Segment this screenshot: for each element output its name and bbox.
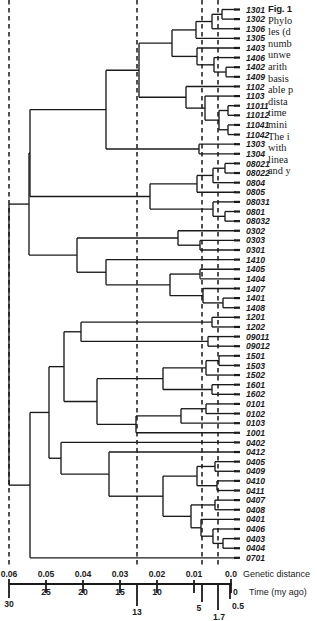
tip-label-1502: 1502 — [246, 370, 265, 380]
gd-tick-label-0.02: 0.02 — [149, 569, 166, 579]
time-tick-label-0.5: 0.5 — [232, 601, 244, 611]
tip-label-1302: 1302 — [246, 14, 265, 24]
tip-label-1403: 1403 — [246, 43, 265, 53]
caption-line-4: arith — [268, 61, 317, 73]
tip-label-1401: 1401 — [246, 293, 265, 303]
tip-label-0409: 0409 — [246, 466, 265, 476]
time-tick-label-1.7: 1.7 — [213, 612, 225, 621]
tip-label-0303: 0303 — [246, 235, 265, 245]
time-tick-label-10: 10 — [152, 587, 162, 597]
tip-label-0404: 0404 — [246, 543, 265, 553]
tip-label-0301: 0301 — [246, 245, 265, 255]
gd-tick-label-0.05: 0.05 — [38, 569, 55, 579]
tip-label-1304: 1304 — [246, 149, 265, 159]
time-tick-label-15: 15 — [115, 587, 125, 597]
axis-group: 0.060.050.040.030.020.010.03025201513105… — [1, 569, 310, 621]
tip-label-08021: 08021 — [246, 159, 270, 169]
caption-line-1: les (d — [268, 26, 317, 38]
caption-line-9: mini — [268, 119, 317, 131]
time-axis-title: Time (my ago) — [249, 587, 307, 597]
gd-tick-label-0.03: 0.03 — [112, 569, 129, 579]
gd-tick-label-0.06: 0.06 — [1, 569, 18, 579]
tip-label-0403: 0403 — [246, 534, 265, 544]
tip-label-0801: 0801 — [246, 207, 265, 217]
tip-label-0411: 0411 — [246, 486, 265, 496]
tip-labels-group: 1301130213061305140314061402140911021103… — [246, 5, 270, 563]
time-tick-label-13: 13 — [132, 607, 142, 617]
tip-label-0103: 0103 — [246, 418, 265, 428]
tip-label-1405: 1405 — [246, 264, 265, 274]
tip-label-1305: 1305 — [246, 33, 265, 43]
time-tick-label-5: 5 — [197, 603, 202, 613]
tip-label-08031: 08031 — [246, 197, 270, 207]
caption-line-12: linea — [268, 154, 317, 166]
tip-label-1303: 1303 — [246, 139, 265, 149]
tip-label-11042: 11042 — [246, 130, 269, 140]
tip-label-0412: 0412 — [246, 447, 265, 457]
tip-label-1001: 1001 — [246, 428, 265, 438]
tip-label-1102: 1102 — [246, 82, 265, 92]
reference-lines-group — [9, 0, 218, 566]
tip-label-0102: 0102 — [246, 409, 265, 419]
tip-label-0701: 0701 — [246, 553, 265, 563]
tip-label-0302: 0302 — [246, 226, 265, 236]
time-tick-label-0: 0 — [233, 587, 238, 597]
tip-label-1404: 1404 — [246, 274, 265, 284]
caption-line-11: with — [268, 142, 317, 154]
tip-label-1503: 1503 — [246, 361, 265, 371]
caption-line-8: time — [268, 107, 317, 119]
time-tick-label-30: 30 — [4, 599, 14, 609]
tip-label-09011: 09011 — [246, 332, 269, 342]
tip-label-1602: 1602 — [246, 389, 265, 399]
caption-line-0: Phylo — [268, 15, 317, 27]
tip-label-08022: 08022 — [246, 168, 270, 178]
caption-line-6: able p — [268, 84, 317, 96]
tip-label-0407: 0407 — [246, 495, 266, 505]
caption-line-5: basis — [268, 73, 317, 85]
caption-line-3: unwe — [268, 49, 317, 61]
tip-label-1301: 1301 — [246, 5, 265, 15]
tip-label-0805: 0805 — [246, 187, 265, 197]
tip-label-1306: 1306 — [246, 24, 265, 34]
tip-label-1202: 1202 — [246, 322, 265, 332]
caption-body: Phyloles (dnumbunwearithbasisable pdista… — [268, 15, 317, 177]
tip-label-1407: 1407 — [246, 284, 266, 294]
caption-line-13: and y — [268, 165, 317, 177]
caption-line-2: numb — [268, 38, 317, 50]
tip-label-1410: 1410 — [246, 255, 265, 265]
tip-label-0402: 0402 — [246, 438, 265, 448]
tip-label-1402: 1402 — [246, 62, 265, 72]
tip-label-0401: 0401 — [246, 514, 265, 524]
tip-label-11011: 11011 — [246, 101, 269, 111]
time-tick-label-25: 25 — [41, 587, 51, 597]
tip-label-1501: 1501 — [246, 351, 265, 361]
tip-label-0804: 0804 — [246, 178, 265, 188]
tip-label-1409: 1409 — [246, 72, 265, 82]
genetic-distance-axis-title: Genetic distance — [243, 569, 310, 579]
gd-tick-label-0.04: 0.04 — [75, 569, 92, 579]
tip-label-08032: 08032 — [246, 216, 270, 226]
tip-tick-group — [234, 10, 240, 558]
figure-container: 1301130213061305140314061402140911021103… — [0, 0, 317, 621]
tip-label-1601: 1601 — [246, 380, 265, 390]
caption-line-7: dista — [268, 96, 317, 108]
caption-line-10: The i — [268, 131, 317, 143]
gd-tick-label-0.0: 0.0 — [225, 569, 237, 579]
tip-label-11012: 11012 — [246, 110, 269, 120]
tip-label-0101: 0101 — [246, 399, 265, 409]
tip-label-0410: 0410 — [246, 476, 265, 486]
figure-caption: Fig. 1 Phyloles (dnumbunwearithbasisable… — [268, 3, 317, 177]
tip-label-0408: 0408 — [246, 505, 265, 515]
tip-label-0406: 0406 — [246, 524, 265, 534]
tip-label-1103: 1103 — [246, 91, 265, 101]
tip-label-09012: 09012 — [246, 341, 270, 351]
tip-label-1406: 1406 — [246, 53, 265, 63]
tip-label-11041: 11041 — [246, 120, 269, 130]
time-tick-label-20: 20 — [78, 587, 88, 597]
gd-tick-label-0.01: 0.01 — [186, 569, 203, 579]
tip-label-1201: 1201 — [246, 312, 265, 322]
tip-label-0405: 0405 — [246, 457, 265, 467]
caption-title: Fig. 1 — [268, 3, 317, 15]
tip-label-1408: 1408 — [246, 303, 265, 313]
